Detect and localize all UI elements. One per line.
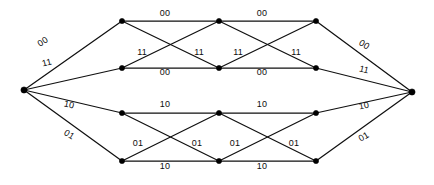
trellis-edge-start-to-r1c1 bbox=[24, 21, 122, 90]
lbl-low-cross-1: 01 bbox=[133, 139, 143, 148]
lbl-top-seg2: 00 bbox=[257, 9, 267, 18]
trellis-node-r1c1 bbox=[119, 18, 124, 23]
lbl-mid-cross-3: 11 bbox=[233, 48, 243, 57]
trellis-node-r3c3 bbox=[313, 110, 318, 115]
trellis-node-r3c1 bbox=[119, 110, 124, 115]
trellis-node-r2c2 bbox=[216, 65, 221, 70]
trellis-node-start bbox=[21, 87, 27, 93]
lbl-start-lowmid: 10 bbox=[63, 100, 75, 111]
lbl-row3-seg1: 10 bbox=[160, 100, 170, 109]
trellis-edge-r1c3-to-end bbox=[316, 21, 412, 92]
trellis-diagram: 0011100100001111111100001010010101011010… bbox=[0, 0, 434, 185]
lbl-bottom-seg2: 10 bbox=[257, 162, 267, 171]
trellis-node-r1c3 bbox=[313, 18, 318, 23]
lbl-row2-seg2: 00 bbox=[257, 68, 267, 77]
trellis-node-r2c1 bbox=[119, 65, 124, 70]
lbl-low-cross-4: 01 bbox=[289, 139, 299, 148]
trellis-node-end bbox=[409, 89, 415, 95]
lbl-top-seg1: 00 bbox=[160, 9, 170, 18]
lbl-low-cross-2: 01 bbox=[192, 139, 202, 148]
trellis-node-r1c2 bbox=[216, 18, 221, 23]
trellis-node-r2c3 bbox=[313, 65, 318, 70]
trellis-edge-layer bbox=[24, 21, 412, 161]
lbl-mid-cross-2: 11 bbox=[194, 48, 204, 57]
trellis-node-r3c2 bbox=[216, 110, 221, 115]
lbl-row2-seg1: 00 bbox=[160, 68, 170, 77]
trellis-node-layer bbox=[21, 18, 415, 163]
lbl-mid-cross-1: 11 bbox=[137, 48, 147, 57]
trellis-node-r4c3 bbox=[313, 158, 318, 163]
lbl-mid-cross-4: 11 bbox=[291, 48, 301, 57]
lbl-bottom-seg1: 10 bbox=[160, 162, 170, 171]
trellis-node-r4c1 bbox=[119, 158, 124, 163]
lbl-low-cross-3: 01 bbox=[230, 139, 240, 148]
trellis-node-r4c2 bbox=[216, 158, 221, 163]
lbl-row3-seg2: 10 bbox=[257, 100, 267, 109]
trellis-graph-canvas bbox=[0, 0, 434, 185]
